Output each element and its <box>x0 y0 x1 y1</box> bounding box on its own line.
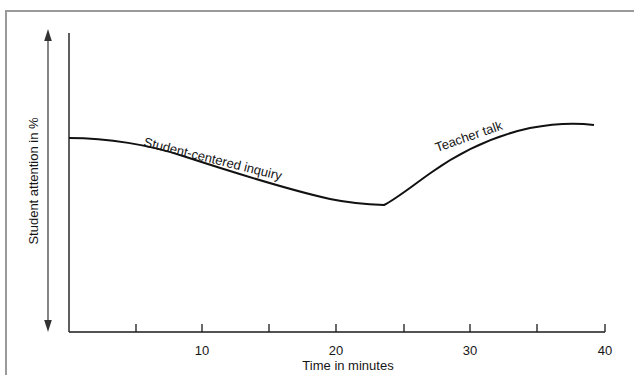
x-axis-title: Time in minutes <box>302 358 394 373</box>
y-axis-arrow <box>44 29 52 332</box>
x-tick-label-10: 10 <box>195 343 209 358</box>
y-axis-title: Student attention in % <box>26 117 41 245</box>
x-tick-label-30: 30 <box>463 343 477 358</box>
x-axis-ticks <box>136 324 605 332</box>
attention-curve-chart: 10 20 30 40 Time in minutes Student atte… <box>0 0 634 375</box>
y-arrow-head-up-icon <box>44 29 52 41</box>
x-tick-label-40: 40 <box>598 343 612 358</box>
x-tick-label-20: 20 <box>329 343 343 358</box>
y-arrow-head-down-icon <box>44 320 52 332</box>
series-label-student-centered-inquiry: Student-centered inquiry <box>142 134 284 183</box>
figure-canvas: 10 20 30 40 Time in minutes Student atte… <box>0 0 634 375</box>
